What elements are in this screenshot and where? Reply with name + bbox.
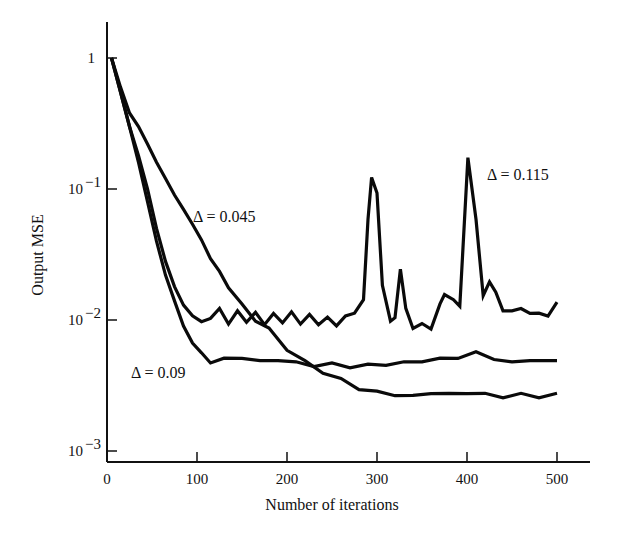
annotation-delta-009: Δ = 0.09 — [131, 364, 185, 381]
x-tick-label: 400 — [456, 471, 479, 487]
line-chart: 1−110−210−310 0100200300400500 Number of… — [0, 0, 622, 535]
x-axis-title: Number of iterations — [265, 496, 398, 513]
x-tick-label: 100 — [186, 471, 209, 487]
y-tick-exponent: −1 — [85, 174, 101, 190]
x-tick-label: 0 — [103, 471, 111, 487]
annotation-delta-0045: Δ = 0.045 — [193, 208, 255, 225]
x-tick-label: 500 — [546, 471, 569, 487]
y-tick-exponent: −3 — [85, 436, 101, 452]
y-tick-label: 1 — [88, 50, 96, 66]
y-tick-label: 10 — [68, 443, 83, 459]
x-ticks: 0100200300400500 — [103, 452, 568, 487]
y-tick-label: 10 — [68, 312, 83, 328]
y-axis-title: Output MSE — [29, 214, 47, 295]
series-line-009 — [112, 58, 558, 368]
y-tick-exponent: −2 — [85, 305, 101, 321]
y-tick-label: 10 — [68, 181, 83, 197]
series-line-0115 — [112, 58, 558, 329]
annotation-delta-0115: Δ = 0.115 — [487, 166, 549, 183]
series-line-0045 — [112, 58, 558, 398]
series-layer — [112, 58, 558, 398]
x-tick-label: 300 — [366, 471, 389, 487]
x-tick-label: 200 — [276, 471, 299, 487]
y-ticks: 1−110−210−310 — [68, 50, 117, 459]
